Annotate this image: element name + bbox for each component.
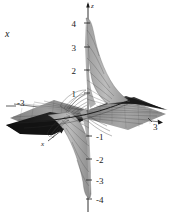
z-axis-label: z: [90, 2, 94, 10]
z-tick-label-2: 2: [72, 66, 77, 76]
z-tick-label-4: 4: [72, 19, 77, 29]
z-tick-label-neg3: -3: [96, 176, 104, 186]
horizontal-tick-label-neg3: -3: [17, 98, 25, 108]
z-tick-label-neg4: -4: [96, 195, 104, 205]
z-tick-label-3: 3: [72, 43, 77, 53]
z-tick-label-neg2: -2: [96, 155, 104, 165]
z-tick-label-neg1: -1: [96, 132, 104, 142]
horizontal-tick-label-3: 3: [153, 122, 158, 132]
plot-canvas: 4 3 2 1 -1 -2 -3 -4 -3 3 z x x: [0, 0, 176, 215]
z-tick-label-1: 1: [72, 89, 77, 99]
surface-plot-figure: 4 3 2 1 -1 -2 -3 -4 -3 3 z x x: [0, 0, 176, 215]
x-axis-label-top: x: [4, 28, 10, 39]
